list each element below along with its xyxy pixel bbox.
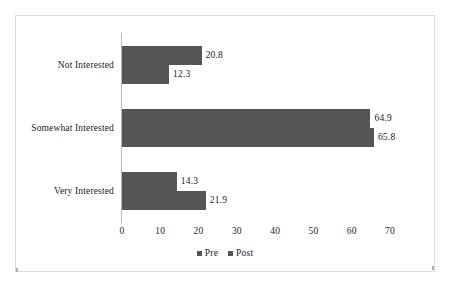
bar-post <box>122 65 169 84</box>
bar-pre <box>122 109 370 128</box>
scan-speckle <box>432 266 434 270</box>
tick-label: 10 <box>155 226 165 236</box>
bar-row: 21.9 <box>122 191 390 210</box>
bar-row: 64.9 <box>122 109 390 128</box>
legend-label: Pre <box>205 248 218 258</box>
chart-legend: PrePost <box>0 248 450 258</box>
legend-swatch-icon <box>228 251 233 256</box>
bar-row: 12.3 <box>122 65 390 84</box>
tick-label: 20 <box>194 226 204 236</box>
legend-swatch-icon <box>197 251 202 256</box>
bar-post <box>122 191 206 210</box>
bar-value-label: 12.3 <box>173 69 190 79</box>
bar-group: 14.321.9 <box>122 172 390 210</box>
bar-pre <box>122 172 177 191</box>
bar-group: 20.812.3 <box>122 46 390 84</box>
tick-label: 30 <box>232 226 242 236</box>
bar-value-label: 20.8 <box>206 50 223 60</box>
bar-row: 20.8 <box>122 46 390 65</box>
bar-row: 14.3 <box>122 172 390 191</box>
category-label: Somewhat Interested <box>8 123 114 133</box>
bar-value-label: 64.9 <box>374 113 391 123</box>
value-axis-tick-labels: 010203040506070 <box>122 226 390 240</box>
legend-item-post[interactable]: Post <box>228 248 253 258</box>
category-label: Not Interested <box>8 60 114 70</box>
category-axis: Not InterestedSomewhat InterestedVery In… <box>8 33 114 222</box>
bar-row: 65.8 <box>122 128 390 147</box>
bar-value-label: 21.9 <box>210 195 227 205</box>
bar-post <box>122 128 374 147</box>
tick-label: 60 <box>347 226 357 236</box>
bar-pre <box>122 46 202 65</box>
bar-group: 64.965.8 <box>122 109 390 147</box>
tick-label: 70 <box>385 226 395 236</box>
bar-value-label: 65.8 <box>378 132 395 142</box>
bar-chart: Not InterestedSomewhat InterestedVery In… <box>0 0 450 292</box>
legend-item-pre[interactable]: Pre <box>197 248 218 258</box>
legend-label: Post <box>236 248 253 258</box>
bar-value-label: 14.3 <box>181 176 198 186</box>
scan-speckle <box>16 268 18 272</box>
plot-area: 20.812.364.965.814.321.9 <box>122 33 390 222</box>
tick-label: 50 <box>308 226 318 236</box>
tick-label: 0 <box>120 226 125 236</box>
category-label: Very Interested <box>8 186 114 196</box>
tick-label: 40 <box>270 226 280 236</box>
